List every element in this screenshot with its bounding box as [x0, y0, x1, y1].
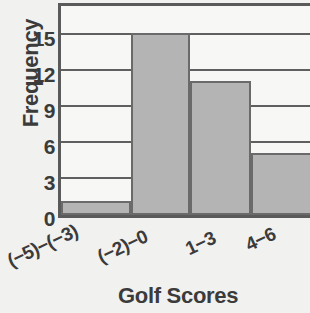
- x-tick-label: 4−6: [242, 223, 279, 256]
- y-tick-label: 0: [9, 208, 55, 229]
- x-tick-label: 1−3: [182, 227, 219, 260]
- bar: [190, 81, 251, 215]
- bar: [251, 153, 310, 215]
- x-tick-label: (−2)−0: [94, 226, 151, 268]
- y-tick-label: 3: [9, 172, 55, 193]
- bar: [131, 33, 190, 215]
- bar: [61, 201, 131, 215]
- y-axis-title: Frequency: [18, 0, 44, 148]
- plot-area: [58, 3, 310, 218]
- x-axis-title: Golf Scores: [118, 283, 238, 309]
- histogram-screenshot: 03691215 Frequency (−5)−(−3)(−2)−01−34−6…: [0, 0, 310, 313]
